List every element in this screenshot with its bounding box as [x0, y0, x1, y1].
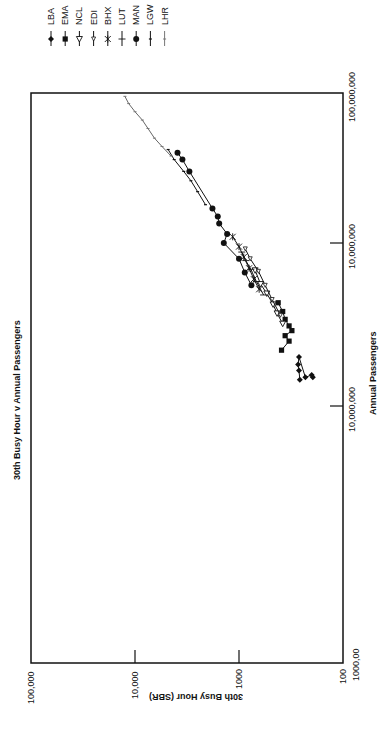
chart-title: 30th Busy Hour v Annual Passengers	[12, 320, 22, 480]
legend-marker-lba	[48, 31, 54, 46]
legend-marker-edi	[92, 31, 96, 46]
series-lhr	[123, 96, 172, 156]
legend-marker-lgw	[149, 31, 152, 46]
data-series	[123, 96, 315, 382]
y-axis-label: 30th Busy Hour (SBR)	[149, 692, 243, 702]
legend-marker-ncl	[76, 31, 82, 46]
legend-label-lgw: LGW	[145, 4, 155, 25]
x-tick-label: 100,000,000	[347, 72, 357, 122]
series-man	[175, 150, 255, 289]
x-tick-label: 10,000,000	[347, 387, 357, 432]
scatter-line-chart	[0, 0, 381, 730]
legend-label-lut: LUT	[117, 8, 127, 25]
legend-label-lhr: LHR	[160, 7, 170, 25]
legend-marker-lut	[119, 31, 126, 46]
legend-marker-man	[133, 31, 139, 46]
sbr-axis-ticks	[135, 650, 239, 663]
legend-markers	[48, 31, 166, 46]
legend-label-ema: EMA	[60, 5, 70, 25]
series-ncl	[252, 268, 286, 327]
legend-label-ncl: NCL	[74, 7, 84, 25]
x-axis-label: Annual Passengers	[368, 331, 378, 415]
x-tick-label: 10,000,000	[347, 224, 357, 269]
series-lgw	[167, 150, 207, 205]
x-tick-label: 1000,00	[351, 649, 361, 682]
legend-marker-lhr	[163, 31, 166, 46]
legend-label-bhx: BHX	[103, 6, 113, 25]
series-ema	[276, 300, 295, 353]
passenger-axis-ticks	[330, 243, 343, 406]
legend-marker-ema	[63, 31, 68, 46]
series-lba	[295, 354, 316, 383]
legend-label-edi: EDI	[89, 10, 99, 25]
y-tick-label: 1000	[234, 669, 244, 689]
y-tick-label: 100,000	[26, 672, 36, 705]
plot-frame	[31, 93, 343, 663]
legend-marker-bhx	[105, 31, 111, 46]
legend-label-lba: LBA	[46, 8, 56, 25]
y-tick-label: 10,000	[130, 672, 140, 700]
y-tick-label: 100	[338, 669, 348, 684]
legend-label-man: MAN	[131, 5, 141, 25]
